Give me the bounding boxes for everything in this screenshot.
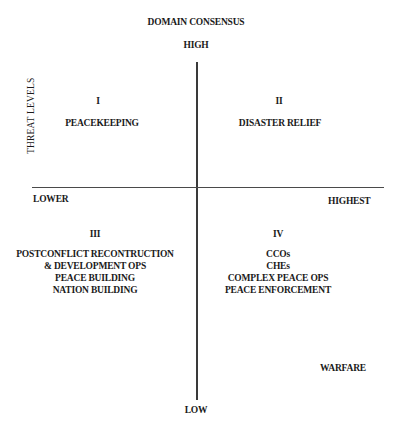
quadrant-3-item: & DEVELOPMENT OPS [16,260,173,272]
quadrant-3-items: POSTCONFLICT RECONTRUCTION & DEVELOPMENT… [16,248,173,296]
quadrant-1-numeral: I [96,96,100,106]
quadrant-2-numeral: II [276,96,283,106]
quadrant-4-numeral: IV [273,229,283,239]
quadrant-1-item: PEACEKEEPING [65,118,139,128]
vertical-axis [196,62,198,400]
quadrant-4-item: COMPLEX PEACE OPS [225,272,331,284]
quadrant-4-item: CCOs [225,248,331,260]
diagram-title: DOMAIN CONSENSUS [148,17,245,27]
quadrant-2-item: DISASTER RELIEF [239,118,321,128]
quadrant-3-item: NATION BUILDING [16,284,173,296]
axis-label-high: HIGH [183,40,208,50]
quadrant-4-item: PEACE ENFORCEMENT [225,284,331,296]
label-warfare: WARFARE [320,363,366,373]
axis-label-low: LOW [185,405,208,415]
axis-label-lower: LOWER [33,194,68,204]
quadrant-3-numeral: III [90,229,101,239]
horizontal-axis [32,187,384,189]
quadrant-4-item: CHEs [225,260,331,272]
quadrant-3-item: POSTCONFLICT RECONTRUCTION [16,248,173,260]
quadrant-4-items: CCOs CHEs COMPLEX PEACE OPS PEACE ENFORC… [225,248,331,296]
quadrant-3-item: PEACE BUILDING [16,272,173,284]
axis-label-highest: HIGHEST [328,196,370,206]
axis-title-threat-levels: THREAT LEVELS [26,77,36,154]
